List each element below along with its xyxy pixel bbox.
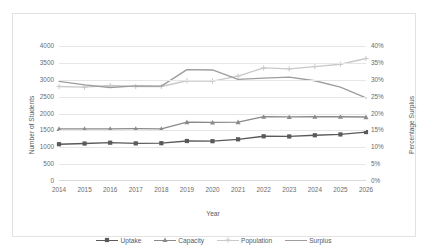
y-axis-left-tick-label: 1500	[40, 127, 54, 133]
x-axis-tick-label: 2014	[52, 187, 66, 193]
data-point-marker	[262, 134, 266, 138]
gridline	[59, 164, 366, 165]
data-point-marker	[163, 238, 168, 243]
y-axis-right-tick-label: 5%	[371, 161, 380, 167]
data-point-marker	[287, 66, 292, 71]
data-point-marker	[159, 141, 163, 145]
data-point-marker	[210, 139, 214, 143]
data-point-marker	[57, 142, 61, 146]
x-axis-title: Year	[206, 210, 219, 217]
x-axis-tick-label: 2026	[359, 187, 373, 193]
y-axis-left-title: Number of Students	[28, 96, 35, 155]
y-axis-right-tick-label: 40%	[371, 43, 384, 49]
gridline	[59, 97, 366, 98]
data-point-marker	[105, 238, 109, 242]
legend-item-capacity[interactable]: Capacity	[154, 236, 204, 244]
series-capacity	[57, 114, 369, 131]
data-point-marker	[134, 141, 138, 145]
data-point-marker	[235, 73, 240, 78]
gridline	[59, 46, 366, 47]
legend-item-uptake[interactable]: Uptake	[96, 236, 141, 244]
y-axis-right-tick-label: 15%	[371, 127, 384, 133]
chart-legend: UptakeCapacityPopulationSurplus	[13, 236, 415, 244]
x-axis-tick-label: 2017	[129, 187, 143, 193]
series-surplus	[59, 70, 366, 98]
gridline	[59, 80, 366, 81]
y-axis-left-tick-label: 4000	[40, 43, 54, 49]
data-point-marker	[287, 134, 291, 138]
x-axis-tick-label: 2015	[77, 187, 91, 193]
data-point-marker	[261, 65, 266, 70]
x-axis-tick-label: 2023	[282, 187, 296, 193]
y-axis-left-tick-label: 2000	[40, 110, 54, 116]
x-axis-tick-label: 2016	[103, 187, 117, 193]
legend-swatch-icon	[285, 236, 307, 244]
y-axis-right-tick-label: 30%	[371, 77, 384, 83]
y-axis-right-tick-label: 35%	[371, 60, 384, 66]
gridline	[59, 147, 366, 148]
data-point-marker	[225, 237, 230, 242]
legend-swatch-icon	[96, 236, 118, 244]
plot-area: 05001000150020002500300035004000 0%5%10%…	[59, 46, 366, 181]
legend-swatch-icon	[154, 236, 176, 244]
gridline	[59, 130, 366, 131]
data-point-marker	[82, 141, 86, 145]
legend-label: Surplus	[309, 237, 331, 244]
x-axis-tick-label: 2022	[257, 187, 271, 193]
legend-label: Uptake	[120, 237, 141, 244]
data-point-marker	[312, 64, 317, 69]
legend-label: Population	[241, 237, 272, 244]
chart-container: Number of Students Percentage Surplus Ye…	[12, 13, 416, 237]
data-point-marker	[236, 137, 240, 141]
legend-item-population[interactable]: Population	[217, 236, 272, 244]
x-axis-tick-label: 2019	[180, 187, 194, 193]
y-axis-right-tick-label: 20%	[371, 110, 384, 116]
y-axis-left-tick-label: 500	[43, 161, 54, 167]
legend-label: Capacity	[178, 237, 204, 244]
data-point-marker	[313, 133, 317, 137]
y-axis-left-tick-label: 3000	[40, 77, 54, 83]
series-line	[59, 70, 366, 98]
y-axis-left-tick-label: 3500	[40, 60, 54, 66]
x-axis-tick-label: 2021	[231, 187, 245, 193]
y-axis-right-tick-label: 10%	[371, 144, 384, 150]
legend-swatch-icon	[217, 236, 239, 244]
gridline	[59, 63, 366, 64]
y-axis-right-tick-label: 25%	[371, 93, 384, 99]
y-axis-left-tick-label: 2500	[40, 93, 54, 99]
y-axis-right-title: Percentage Surplus	[408, 96, 415, 154]
y-axis-left-tick-label: 1000	[40, 144, 54, 150]
y-axis-right-tick-label: 0%	[371, 178, 380, 184]
x-axis-tick-label: 2020	[205, 187, 219, 193]
data-point-marker	[338, 132, 342, 136]
y-axis-left-tick-label: 0	[50, 178, 54, 184]
x-axis-tick-label: 2024	[308, 187, 322, 193]
data-point-marker	[56, 84, 61, 89]
legend-item-surplus[interactable]: Surplus	[285, 236, 331, 244]
gridline	[59, 114, 366, 115]
x-axis-tick-label: 2018	[154, 187, 168, 193]
data-point-marker	[108, 141, 112, 145]
x-axis-tick-label: 2025	[333, 187, 347, 193]
data-point-marker	[363, 56, 368, 61]
data-point-marker	[185, 139, 189, 143]
series-uptake	[57, 130, 368, 146]
x-axis-line	[59, 180, 366, 181]
series-population	[56, 56, 368, 90]
